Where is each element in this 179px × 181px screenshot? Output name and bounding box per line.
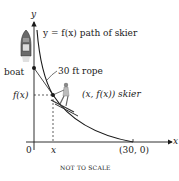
x-tick-label: x [51,146,56,155]
skier-path-curve [37,30,133,142]
path-label: y = f(x) path of skier [43,29,137,38]
rope-label-leader [47,71,57,80]
origin-label: 0 [26,146,32,155]
skier-point [51,93,55,97]
boat-icon [21,30,31,62]
not-to-scale-note: NOT TO SCALE [60,165,111,171]
skier-icon [51,83,78,116]
water-skier-tractrix-diagram: y y = f(x) path of skier boat 30 ft rope… [0,0,179,181]
endpoint-label: (30, 0) [119,146,149,155]
fx-tick-label: f(x) [13,91,28,100]
boat-label: boat [4,68,24,77]
x-axis-label: x [173,137,178,146]
y-axis-label: y [31,10,36,19]
skier-point-label: (x, f(x)) skier [82,90,141,99]
rope-label: 30 ft rope [58,67,103,76]
